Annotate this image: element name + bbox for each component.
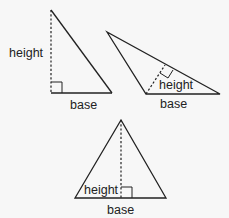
base-label: base — [70, 98, 97, 112]
hypotenuse-edge — [51, 10, 112, 93]
right-angle-marker — [160, 70, 173, 78]
height-label: height — [159, 78, 194, 92]
diagram-svg: height base height base height base — [0, 0, 229, 218]
acute-triangle: height base — [75, 120, 166, 217]
base-label: base — [160, 97, 187, 111]
triangle-diagram: height base height base height base — [0, 0, 229, 218]
right-angle-marker — [121, 187, 132, 198]
base-label: base — [107, 203, 134, 217]
height-label: height — [9, 46, 44, 60]
height-label: height — [84, 183, 119, 197]
right-triangle: height base — [9, 10, 112, 112]
right-angle-marker — [51, 82, 62, 93]
obtuse-triangle: height base — [107, 32, 220, 111]
